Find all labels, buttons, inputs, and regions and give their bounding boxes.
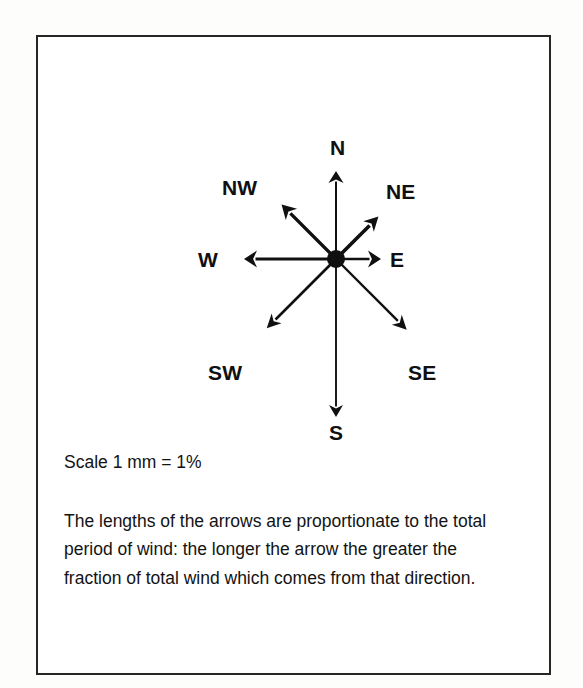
wind-arrow-n bbox=[329, 171, 344, 259]
description-text: The lengths of the arrows are proportion… bbox=[64, 507, 512, 592]
caption-block: Scale 1 mm = 1% The lengths of the arrow… bbox=[64, 452, 522, 592]
scale-note: Scale 1 mm = 1% bbox=[64, 452, 522, 473]
wind-arrow-sw bbox=[267, 259, 336, 328]
direction-label-se: SE bbox=[408, 362, 436, 383]
arrow-group bbox=[244, 171, 407, 417]
wind-arrow-w bbox=[244, 251, 336, 268]
direction-label-w: W bbox=[198, 249, 218, 270]
arrow-shaft-nw bbox=[290, 213, 336, 259]
arrow-head-n bbox=[329, 171, 344, 183]
direction-label-s: S bbox=[329, 422, 343, 443]
wind-arrow-s bbox=[329, 259, 343, 417]
wind-arrow-nw bbox=[282, 205, 336, 259]
arrow-head-e bbox=[368, 251, 381, 268]
arrow-head-w bbox=[244, 251, 257, 268]
direction-label-nw: NW bbox=[222, 177, 257, 198]
direction-label-n: N bbox=[330, 137, 345, 158]
figure-border-frame: N NE E SE S SW W NW Scale 1 mm = 1% The … bbox=[36, 35, 551, 675]
wind-rose-arrows-svg bbox=[38, 37, 549, 437]
arrow-shaft-se bbox=[336, 259, 398, 321]
direction-label-sw: SW bbox=[208, 362, 242, 383]
wind-rose-diagram: N NE E SE S SW W NW bbox=[38, 37, 549, 437]
direction-label-e: E bbox=[390, 249, 404, 270]
arrow-shaft-sw bbox=[276, 259, 336, 319]
figure-page: N NE E SE S SW W NW Scale 1 mm = 1% The … bbox=[0, 0, 583, 688]
direction-label-ne: NE bbox=[386, 181, 416, 202]
arrow-head-s bbox=[329, 405, 343, 417]
compass-center-hub bbox=[327, 250, 345, 268]
